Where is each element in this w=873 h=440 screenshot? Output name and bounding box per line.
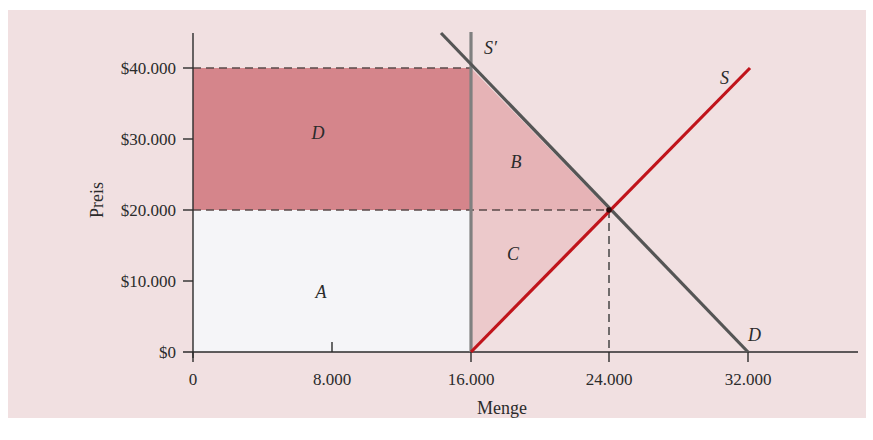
s-curve-label: S (720, 68, 729, 88)
x-axis-title: Menge (477, 398, 527, 418)
region-a (193, 210, 471, 352)
y-tick-label-10000: $10.000 (121, 272, 176, 291)
y-tick-label-20000: $20.000 (121, 201, 176, 220)
x-tick-label-0: 0 (189, 370, 198, 389)
equilibrium-point (606, 207, 612, 213)
x-tick-label-16000: 16.000 (448, 370, 495, 389)
chart-svg: $40.000 $30.000 $20.000 $10.000 $0 0 8.0… (0, 0, 873, 440)
x-tick-label-8000: 8.000 (313, 370, 351, 389)
y-axis-title: Preis (87, 182, 107, 218)
d-curve-label: D (747, 325, 761, 345)
y-tick-label-0: $0 (159, 343, 176, 362)
region-b (471, 68, 609, 210)
region-d (193, 68, 471, 210)
region-c-label: C (507, 244, 520, 264)
s-prime-label: S′ (484, 38, 498, 58)
region-b-label: B (511, 152, 522, 172)
region-d-label: D (311, 123, 325, 143)
x-tick-label-32000: 32.000 (725, 370, 772, 389)
x-tick-label-24000: 24.000 (586, 370, 633, 389)
y-tick-label-40000: $40.000 (121, 59, 176, 78)
region-a-label: A (315, 282, 328, 302)
y-tick-label-30000: $30.000 (121, 130, 176, 149)
